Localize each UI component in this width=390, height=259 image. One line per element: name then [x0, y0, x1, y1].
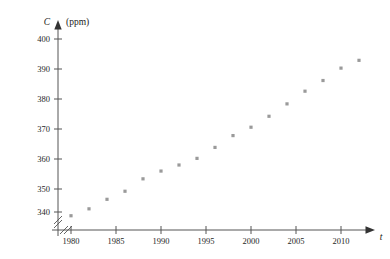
data-point [141, 177, 144, 180]
y-tick-label: 350 [37, 184, 50, 194]
y-tick-label: 390 [37, 64, 50, 74]
data-point [213, 146, 216, 149]
data-point [159, 169, 162, 172]
y-tick-label: 380 [37, 94, 50, 104]
x-tick-label: 1985 [108, 236, 125, 246]
data-point [195, 157, 198, 160]
y-axis [54, 20, 61, 236]
x-axis [52, 226, 375, 233]
data-point [303, 90, 306, 93]
y-tick-label: 340 [37, 207, 50, 217]
y-axis-unit-label: (ppm) [66, 17, 89, 28]
data-point [321, 79, 324, 82]
x-tick-label: 1990 [153, 236, 170, 246]
data-point [267, 115, 270, 118]
y-tick-label: 400 [37, 34, 50, 44]
y-tick-label: 370 [37, 124, 50, 134]
scatter-chart: 400 390 380 370 360 350 340 1980 1985 19… [0, 0, 390, 259]
x-tick-label: 1980 [63, 236, 80, 246]
data-point [177, 163, 180, 166]
x-tick-label: 2000 [243, 236, 260, 246]
data-point [285, 102, 288, 105]
x-axis-label: t [380, 232, 383, 242]
data-point [231, 134, 234, 137]
data-point [357, 59, 360, 62]
x-tick-label: 1995 [198, 236, 215, 246]
y-tick-label: 360 [37, 154, 50, 164]
data-point [105, 198, 108, 201]
data-point-series [69, 59, 360, 218]
y-tick-labels: 400 390 380 370 360 350 340 [37, 34, 50, 217]
data-point [69, 214, 72, 217]
x-tick-label: 2010 [333, 236, 350, 246]
data-point [249, 126, 252, 129]
x-tick-labels: 1980 1985 1990 1995 2000 2005 2010 [63, 236, 350, 246]
data-point [123, 190, 126, 193]
x-tick-label: 2005 [288, 236, 305, 246]
chart-canvas: 400 390 380 370 360 350 340 1980 1985 19… [0, 0, 390, 259]
data-point [339, 67, 342, 70]
data-point [87, 207, 90, 210]
y-axis-label: C [44, 17, 51, 27]
